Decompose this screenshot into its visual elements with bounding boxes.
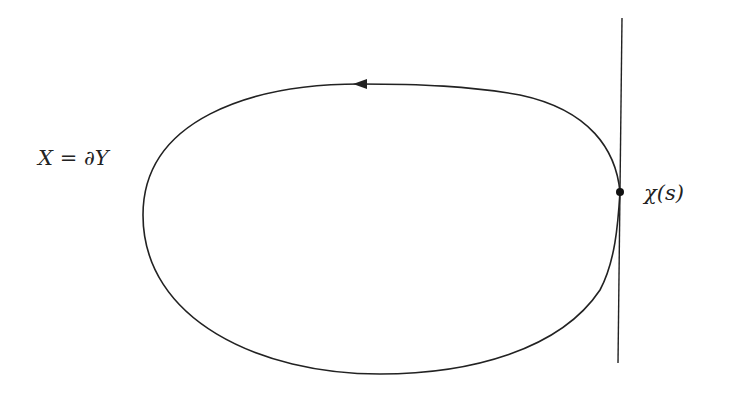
closed-curve [143, 84, 620, 374]
point-label: χ(s) [642, 181, 684, 205]
diagram-canvas: X = ∂Y χ(s) [0, 0, 729, 398]
marked-point [616, 188, 624, 196]
curve-label: X = ∂Y [36, 146, 111, 170]
orientation-arrow-icon [353, 79, 367, 89]
